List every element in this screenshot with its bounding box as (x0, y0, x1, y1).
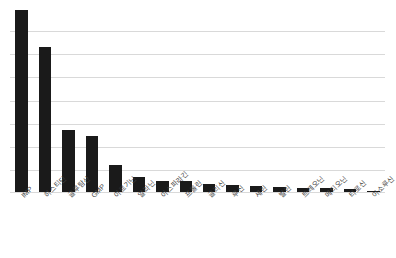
bars-group (10, 8, 385, 193)
bar (39, 47, 52, 193)
plot-area (10, 8, 385, 193)
bar (15, 10, 28, 193)
x-axis-labels: IMP히스티딘글루탐산GMP아르기닌알라닌아스파라긴프롤린글리신루신세린발린트레… (10, 194, 385, 258)
